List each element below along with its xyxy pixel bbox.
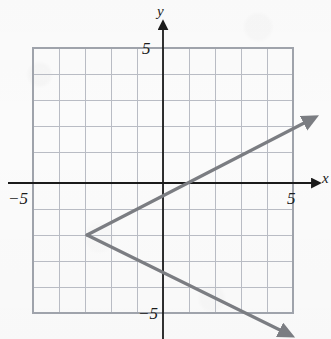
x-tick-label-minus-5: −5 xyxy=(8,190,28,207)
y-axis-label: y xyxy=(157,4,164,19)
lower-ray xyxy=(87,235,284,332)
upper-ray xyxy=(87,121,308,235)
x-tick-label-5: 5 xyxy=(287,190,296,207)
x-axis-label: x xyxy=(322,171,329,186)
y-tick-label-5: 5 xyxy=(142,40,151,57)
graph-screenshot: y x 5 −5 −5 5 xyxy=(0,0,331,339)
y-tick-label-minus-5: −5 xyxy=(138,305,158,322)
coordinate-plane xyxy=(0,0,331,339)
